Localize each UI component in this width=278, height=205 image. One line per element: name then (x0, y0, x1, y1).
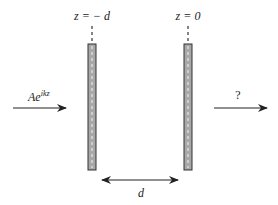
incident-exponent: ikz (41, 89, 51, 98)
incident-amplitude: Ae (27, 90, 41, 104)
right-position-label: z = 0 (175, 9, 201, 23)
incident-wave-label: Aeikz (27, 89, 50, 104)
right-slab (184, 26, 192, 170)
transmitted-wave-label: ? (235, 88, 240, 102)
separation-label: d (138, 186, 145, 200)
left-slab (88, 26, 96, 170)
two-slab-diagram: z = − d z = 0 Aeikz ? d (0, 0, 278, 205)
left-position-label: z = − d (73, 9, 111, 23)
